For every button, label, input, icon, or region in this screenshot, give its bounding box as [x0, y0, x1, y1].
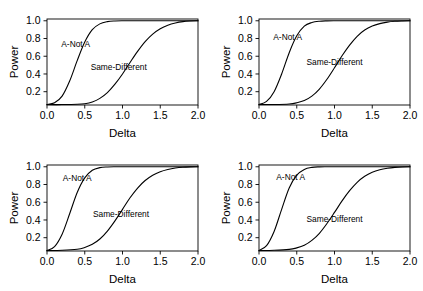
y-tick-label: 0.2 — [238, 85, 253, 97]
x-tick-label: 0.0 — [40, 255, 55, 267]
curve-annotation: A-Not A — [273, 32, 302, 42]
panel-bottom-right: 0.00.51.01.52.00.20.40.60.81.0DeltaPower… — [212, 146, 423, 291]
x-tick-label: 1.0 — [327, 255, 342, 267]
x-tick-label: 2.0 — [403, 109, 418, 121]
y-tick-label: 0.4 — [238, 214, 253, 226]
x-tick-label: 0.5 — [289, 109, 304, 121]
y-tick-label: 0.8 — [238, 32, 253, 44]
y-axis-title: Power — [8, 192, 20, 225]
x-tick-label: 0.5 — [289, 255, 304, 267]
x-axis-title: Delta — [321, 273, 348, 285]
y-tick-label: 1.0 — [26, 160, 41, 172]
x-tick-label: 1.0 — [115, 109, 130, 121]
x-tick-label: 0.5 — [77, 255, 92, 267]
x-tick-label: 1.5 — [365, 255, 380, 267]
y-tick-label: 0.2 — [238, 231, 253, 243]
x-axis-title: Delta — [109, 273, 136, 285]
y-tick-label: 1.0 — [26, 14, 41, 26]
x-tick-label: 1.0 — [327, 109, 342, 121]
y-tick-label: 0.8 — [26, 32, 41, 44]
x-tick-label: 2.0 — [191, 255, 206, 267]
x-tick-label: 0.0 — [252, 109, 267, 121]
y-axis-title: Power — [8, 46, 20, 79]
curve-annotation: Same-Different — [93, 209, 150, 219]
y-tick-label: 0.6 — [26, 196, 41, 208]
panel-top-left: 0.00.51.01.52.00.20.40.60.81.0DeltaPower… — [0, 0, 211, 145]
x-tick-label: 0.0 — [40, 109, 55, 121]
y-tick-label: 0.4 — [26, 68, 41, 80]
y-tick-label: 0.2 — [26, 231, 41, 243]
x-tick-label: 0.5 — [77, 109, 92, 121]
x-tick-label: 1.5 — [365, 109, 380, 121]
x-tick-label: 1.5 — [153, 109, 168, 121]
curve-annotation: A-Not A — [63, 173, 92, 183]
y-tick-label: 1.0 — [238, 14, 253, 26]
y-tick-label: 0.8 — [26, 178, 41, 190]
y-axis-title: Power — [220, 192, 232, 225]
curve-annotation: A-Not A — [276, 172, 305, 182]
y-axis-title: Power — [220, 46, 232, 79]
y-tick-label: 0.8 — [238, 178, 253, 190]
x-tick-label: 1.5 — [153, 255, 168, 267]
curve-annotation: Same-Different — [306, 57, 363, 67]
panel-bottom-left: 0.00.51.01.52.00.20.40.60.81.0DeltaPower… — [0, 146, 211, 291]
curve-annotation: Same-Different — [91, 62, 148, 72]
x-axis-title: Delta — [321, 127, 348, 139]
y-tick-label: 0.4 — [26, 214, 41, 226]
power-curve-figure: 0.00.51.01.52.00.20.40.60.81.0DeltaPower… — [0, 0, 423, 291]
curve-annotation: A-Not A — [61, 39, 90, 49]
x-tick-label: 2.0 — [191, 109, 206, 121]
y-tick-label: 0.6 — [238, 50, 253, 62]
x-tick-label: 1.0 — [115, 255, 130, 267]
y-tick-label: 1.0 — [238, 160, 253, 172]
x-tick-label: 2.0 — [403, 255, 418, 267]
x-tick-label: 0.0 — [252, 255, 267, 267]
y-tick-label: 0.4 — [238, 68, 253, 80]
y-tick-label: 0.6 — [238, 196, 253, 208]
y-tick-label: 0.6 — [26, 50, 41, 62]
curve-annotation: Same-Different — [306, 214, 363, 224]
x-axis-title: Delta — [109, 127, 136, 139]
panel-top-right: 0.00.51.01.52.00.20.40.60.81.0DeltaPower… — [212, 0, 423, 145]
y-tick-label: 0.2 — [26, 85, 41, 97]
